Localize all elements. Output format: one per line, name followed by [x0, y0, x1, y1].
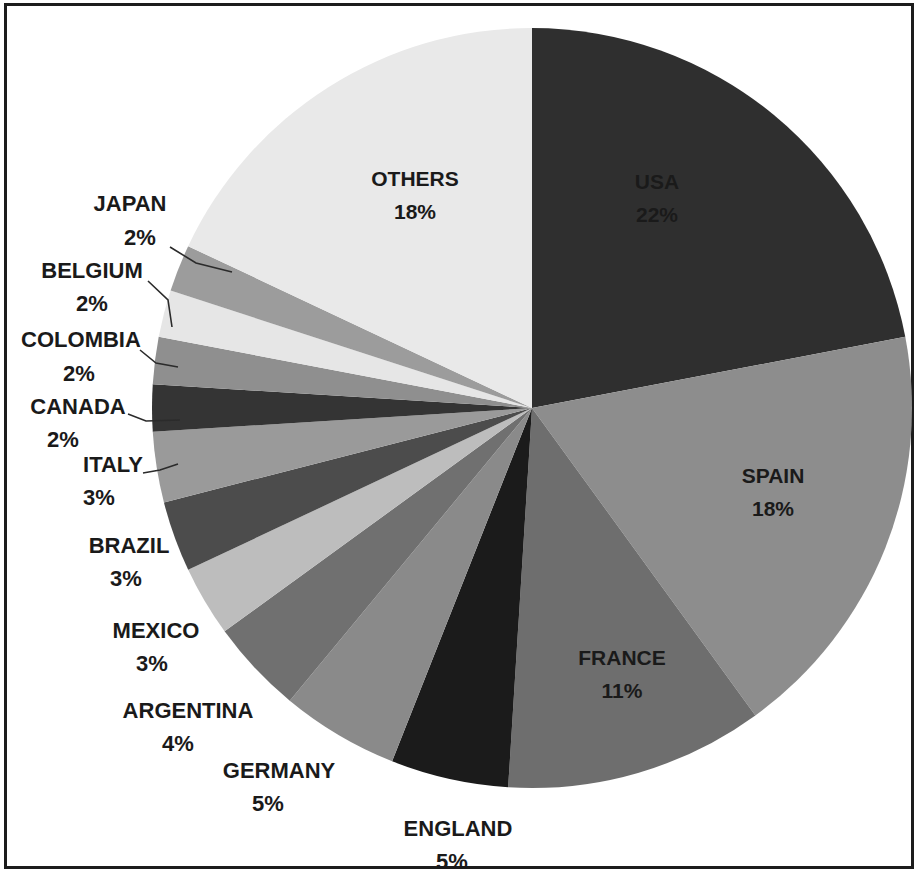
slice-name-spain: SPAIN — [742, 464, 805, 487]
callout-name-germany: GERMANY — [223, 758, 336, 783]
callout-name-england: ENGLAND — [404, 816, 513, 841]
slice-value-others: 18% — [394, 200, 436, 223]
callout-name-mexico: MEXICO — [113, 618, 200, 643]
slice-value-usa: 22% — [636, 203, 678, 226]
slice-value-spain: 18% — [752, 497, 794, 520]
callout-value-japan: 2% — [124, 225, 156, 250]
slice-name-usa: USA — [635, 170, 679, 193]
pie-chart[interactable]: USA22%SPAIN18%FRANCE11%OTHERS18% JAPAN2%… — [0, 0, 922, 877]
callout-name-italy: ITALY — [83, 452, 143, 477]
slice-value-france: 11% — [602, 679, 643, 702]
callout-value-england: 5% — [436, 849, 468, 874]
callout-name-canada: CANADA — [30, 394, 125, 419]
slice-name-france: FRANCE — [578, 646, 666, 669]
callout-name-argentina: ARGENTINA — [123, 698, 254, 723]
callout-value-mexico: 3% — [136, 651, 168, 676]
pie-chart-page: USA22%SPAIN18%FRANCE11%OTHERS18% JAPAN2%… — [0, 0, 922, 877]
callout-value-colombia: 2% — [63, 361, 95, 386]
callout-name-brazil: BRAZIL — [89, 533, 170, 558]
callout-value-italy: 3% — [83, 485, 115, 510]
callout-name-colombia: COLOMBIA — [21, 327, 141, 352]
pie-slices-group — [152, 28, 912, 788]
callout-value-argentina: 4% — [162, 731, 194, 756]
callout-value-germany: 5% — [252, 791, 284, 816]
callout-value-brazil: 3% — [110, 566, 142, 591]
callout-name-japan: JAPAN — [94, 191, 167, 216]
callout-name-belgium: BELGIUM — [41, 258, 142, 283]
callout-value-belgium: 2% — [76, 291, 108, 316]
callout-value-canada: 2% — [47, 427, 79, 452]
slice-name-others: OTHERS — [371, 167, 459, 190]
